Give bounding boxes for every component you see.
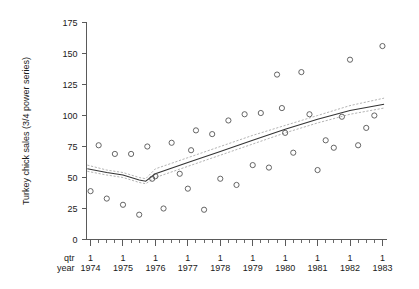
x-axis-year-label: 1976 xyxy=(145,263,165,273)
x-axis-year-label: 1982 xyxy=(340,263,360,273)
plot-background xyxy=(0,0,419,289)
y-axis-tick-label: 50 xyxy=(67,173,77,183)
x-axis-quarter-label: 1 xyxy=(348,253,353,263)
x-axis-year-label: 1979 xyxy=(243,263,263,273)
x-axis-year-label: 1980 xyxy=(275,263,295,273)
x-axis-year-label: 1977 xyxy=(178,263,198,273)
x-axis-quarter-label: 1 xyxy=(120,253,125,263)
y-axis-tick-label: 175 xyxy=(62,18,77,28)
y-axis-tick-label: 25 xyxy=(67,204,77,214)
x-axis-quarter-label: 1 xyxy=(153,253,158,263)
x-axis-quarter-label: 1 xyxy=(380,253,385,263)
x-axis-year-label: 1978 xyxy=(210,263,230,273)
x-axis-row-label-qtr: qtr xyxy=(64,253,75,263)
scatter-plot: 0255075100125150175 11974119751197611977… xyxy=(0,0,419,289)
y-axis-title: Turkey chick sales (3/4 power series) xyxy=(21,57,31,205)
x-axis-quarter-label: 1 xyxy=(185,253,190,263)
x-axis-quarter-label: 1 xyxy=(218,253,223,263)
x-axis-year-label: 1983 xyxy=(372,263,392,273)
x-axis-quarter-label: 1 xyxy=(315,253,320,263)
y-axis-tick-label: 0 xyxy=(72,235,77,245)
chart-container: 0255075100125150175 11974119751197611977… xyxy=(0,0,419,289)
y-axis-tick-label: 125 xyxy=(62,80,77,90)
x-axis-year-label: 1981 xyxy=(308,263,328,273)
x-axis-year-label: 1974 xyxy=(81,263,101,273)
x-axis-year-label: 1975 xyxy=(113,263,133,273)
y-axis-tick-label: 75 xyxy=(67,142,77,152)
x-axis-quarter-label: 1 xyxy=(283,253,288,263)
x-axis-quarter-label: 1 xyxy=(88,253,93,263)
x-axis-row-label-year: year xyxy=(57,263,75,273)
y-axis-tick-label: 150 xyxy=(62,49,77,59)
x-axis-quarter-label: 1 xyxy=(250,253,255,263)
y-axis-tick-label: 100 xyxy=(62,111,77,121)
